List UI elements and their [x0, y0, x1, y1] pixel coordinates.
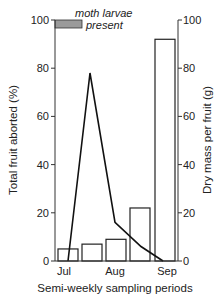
bar — [155, 39, 175, 261]
left-tick-label: 20 — [37, 207, 49, 219]
left-tick-label: 40 — [37, 159, 49, 171]
right-tick-label: 0 — [183, 255, 189, 267]
bar — [106, 239, 126, 261]
x-tick-label: Sep — [157, 265, 177, 277]
right-y-axis-title: Dry mass per fruit (g) — [201, 86, 213, 194]
dry-mass-bars — [58, 39, 175, 261]
right-tick-label: 100 — [183, 14, 201, 26]
annotation-line2: present — [85, 19, 124, 31]
bar — [130, 208, 150, 261]
right-tick-label: 60 — [183, 110, 195, 122]
x-tick-label: Aug — [105, 265, 125, 277]
left-tick-label: 100 — [31, 14, 49, 26]
left-y-axis-title: Total fruit aborted (%) — [7, 85, 19, 195]
left-tick-label: 60 — [37, 110, 49, 122]
left-tick-label: 80 — [37, 62, 49, 74]
moth-larvae-shaded-bar — [55, 20, 82, 28]
right-tick-label: 80 — [183, 62, 195, 74]
right-tick-label: 40 — [183, 159, 195, 171]
chart: moth larvae present 02040608010002040608… — [0, 0, 223, 303]
annotation-line1: moth larvae — [75, 7, 132, 19]
left-tick-label: 0 — [43, 255, 49, 267]
right-tick-label: 20 — [183, 207, 195, 219]
bar — [82, 244, 102, 261]
x-tick-label: Jul — [57, 265, 71, 277]
x-axis-title: Semi-weekly sampling periods — [37, 282, 193, 294]
axis-ticks: 020406080100020406080100JulAugSep — [31, 14, 202, 277]
